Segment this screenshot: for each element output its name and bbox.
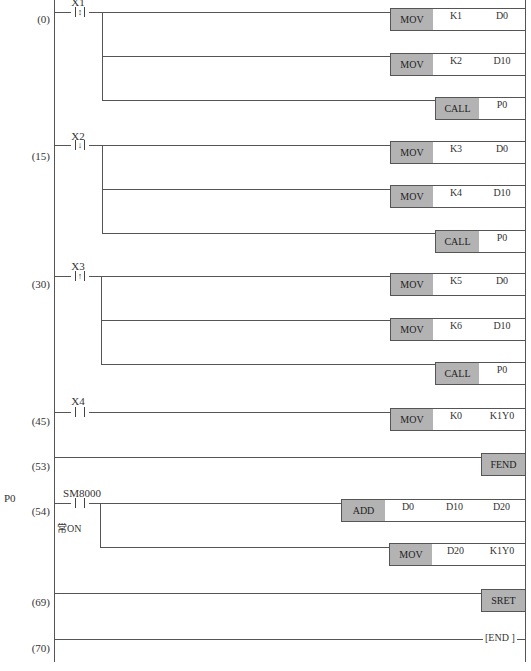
step-number: (15) [20, 150, 50, 162]
step-number: (54) [20, 505, 50, 517]
rung-wire [55, 593, 481, 594]
rung-wire [55, 503, 71, 504]
mov-instruction[interactable]: MOV K4 D10 [390, 185, 526, 208]
fend-instruction[interactable]: FEND [481, 453, 526, 476]
call-instruction[interactable]: CALL P0 [435, 97, 526, 120]
left-power-rail [54, 0, 55, 662]
rung-wire [89, 145, 390, 146]
rung-wire [102, 100, 435, 101]
rung-wire [55, 639, 525, 640]
rung-wire [89, 503, 341, 504]
rung-wire [55, 12, 71, 13]
rung-wire [100, 547, 390, 548]
rung-wire [102, 56, 390, 57]
mov-instruction[interactable]: MOV K6 D10 [390, 318, 526, 341]
edge-contact-icon[interactable]: ↑ [71, 271, 89, 281]
subroutine-label: P0 [4, 492, 16, 504]
rung-wire [102, 189, 390, 190]
rung-wire [89, 12, 390, 13]
edge-contact-icon[interactable]: ↕ [71, 7, 89, 17]
rung-wire [101, 364, 435, 365]
mov-instruction[interactable]: MOV K1 D0 [390, 8, 526, 31]
mov-instruction[interactable]: MOV K2 D10 [390, 53, 526, 76]
branch-wire [100, 503, 101, 548]
edge-contact-icon[interactable]: ↓ [71, 140, 89, 150]
rung-wire [55, 412, 71, 413]
end-instruction[interactable]: [END ] [483, 632, 517, 643]
step-number: (0) [20, 13, 50, 25]
call-instruction[interactable]: CALL P0 [435, 230, 526, 253]
call-instruction[interactable]: CALL P0 [435, 362, 526, 385]
mov-instruction[interactable]: MOV K5 D0 [390, 273, 526, 296]
rung-wire [55, 276, 71, 277]
step-number: (53) [20, 460, 50, 472]
contact-label: X4 [53, 395, 103, 407]
step-number: (69) [20, 596, 50, 608]
step-number: (70) [20, 642, 50, 654]
rung-wire [55, 145, 71, 146]
mov-instruction[interactable]: MOV D20 K1Y0 [389, 543, 526, 566]
step-number: (30) [20, 278, 50, 290]
rung-wire [101, 320, 390, 321]
rung-wire [89, 412, 390, 413]
rung-wire [102, 233, 435, 234]
rung-wire [89, 276, 390, 277]
contact-comment: 常ON [57, 520, 81, 535]
no-contact-icon[interactable] [71, 498, 89, 508]
step-number: (45) [20, 415, 50, 427]
rung-wire [55, 457, 481, 458]
sret-instruction[interactable]: SRET [481, 589, 526, 612]
no-contact-icon[interactable] [71, 407, 89, 417]
mov-instruction[interactable]: MOV K3 D0 [390, 141, 526, 164]
add-instruction[interactable]: ADD D0 D10 D20 [341, 499, 526, 522]
mov-instruction[interactable]: MOV K0 K1Y0 [390, 408, 526, 431]
